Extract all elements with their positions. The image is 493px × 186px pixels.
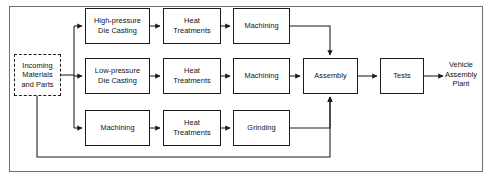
wire-hp-machining-to-assembly — [290, 26, 330, 55]
node-mc-heat-treatments-label: Heat Treatments — [173, 118, 211, 137]
node-lp-heat-treatments-label: Heat Treatments — [173, 66, 211, 85]
node-lp-heat-treatments[interactable]: Heat Treatments — [163, 58, 221, 94]
wire-mc-grinding-to-assembly — [290, 97, 330, 128]
node-high-pressure-die-casting-label: High-pressure Die Casting — [94, 16, 141, 35]
node-grinding-label: Grinding — [247, 123, 275, 133]
label-vehicle-assembly-plant: Vehicle Assembly Plant — [437, 60, 485, 89]
node-assembly-label: Assembly — [314, 71, 346, 81]
node-low-pressure-die-casting[interactable]: Low-pressure Die Casting — [85, 58, 150, 94]
node-hp-machining[interactable]: Machining — [233, 8, 290, 44]
node-tests-label: Tests — [393, 71, 411, 81]
node-mc-machining[interactable]: Machining — [85, 110, 150, 146]
node-high-pressure-die-casting[interactable]: High-pressure Die Casting — [85, 8, 150, 44]
node-mc-machining-label: Machining — [100, 123, 134, 133]
node-tests[interactable]: Tests — [380, 58, 424, 94]
flowchart-canvas: Incoming Materials and Parts High-pressu… — [0, 0, 493, 186]
node-assembly[interactable]: Assembly — [303, 58, 358, 94]
node-incoming-materials[interactable]: Incoming Materials and Parts — [14, 54, 61, 96]
node-hp-machining-label: Machining — [244, 21, 278, 31]
node-lp-machining-label: Machining — [244, 71, 278, 81]
node-lp-machining[interactable]: Machining — [233, 58, 290, 94]
node-hp-heat-treatments-label: Heat Treatments — [173, 16, 211, 35]
node-mc-heat-treatments[interactable]: Heat Treatments — [163, 110, 221, 146]
node-grinding[interactable]: Grinding — [233, 110, 290, 146]
node-low-pressure-die-casting-label: Low-pressure Die Casting — [95, 66, 140, 85]
node-incoming-materials-label: Incoming Materials and Parts — [21, 61, 53, 90]
node-hp-heat-treatments[interactable]: Heat Treatments — [163, 8, 221, 44]
